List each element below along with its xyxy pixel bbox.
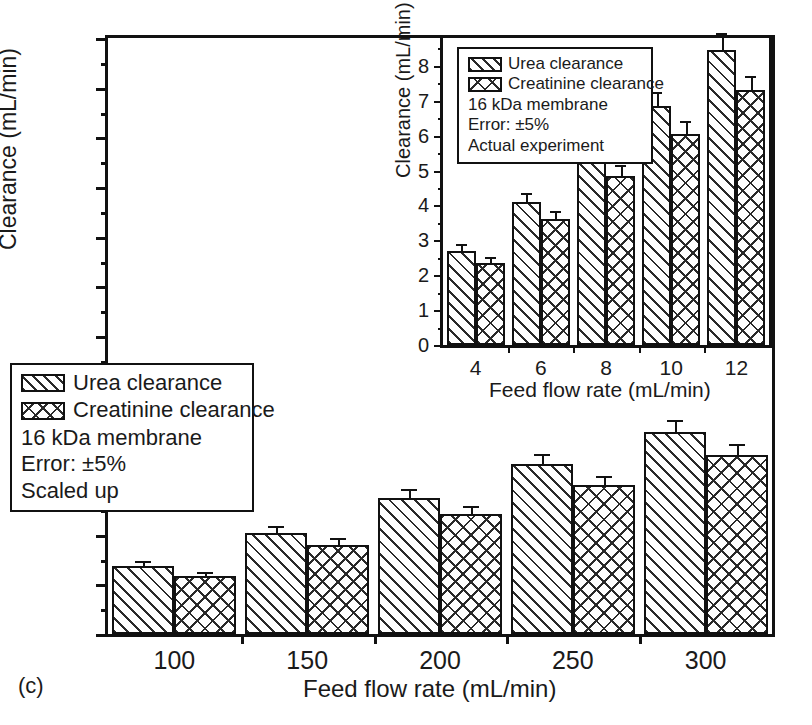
inset-legend-entry-urea: Urea clearance xyxy=(468,54,642,74)
y-axis-minor-tick xyxy=(101,609,108,612)
error-bar-cap xyxy=(550,211,561,213)
x-axis-label: 100 xyxy=(154,646,196,675)
error-bar xyxy=(461,246,463,251)
x-axis-tick xyxy=(506,634,509,644)
error-bar-cap xyxy=(135,561,151,563)
y-axis-tick xyxy=(434,66,443,68)
bar-urea xyxy=(378,498,440,634)
x-axis-label: 12 xyxy=(725,356,748,380)
bar-urea xyxy=(512,202,541,345)
x-axis-tick xyxy=(639,345,641,353)
inset-legend-note-mode: Actual experiment xyxy=(468,136,642,156)
y-axis-tick xyxy=(96,584,108,587)
main-legend: Urea clearance Creatinine clearance 16 k… xyxy=(10,363,254,512)
error-bar xyxy=(751,78,753,91)
y-axis-minor-tick xyxy=(101,113,108,116)
y-axis-tick xyxy=(434,136,443,138)
error-bar-cap xyxy=(534,454,550,456)
y-axis-minor-tick xyxy=(438,153,443,155)
y-axis-tick xyxy=(434,101,443,103)
error-bar xyxy=(686,123,688,134)
x-axis-label: 250 xyxy=(552,646,594,675)
y-axis-minor-tick xyxy=(438,118,443,120)
y-axis-minor-tick xyxy=(438,258,443,260)
inset-legend-note-membrane: 16 kDa membrane xyxy=(468,95,642,115)
y-axis-minor-tick xyxy=(101,262,108,265)
error-bar xyxy=(621,167,623,175)
error-bar-cap xyxy=(716,33,727,35)
legend-label-creatinine: Creatinine clearance xyxy=(73,397,275,423)
x-axis-label: 8 xyxy=(600,356,612,380)
y-axis-tick xyxy=(96,336,108,339)
panel-label: (c) xyxy=(18,673,44,699)
main-x-axis-title: Feed flow rate (mL/min) xyxy=(303,675,556,703)
error-bar xyxy=(737,446,739,455)
error-bar-cap xyxy=(521,193,532,195)
y-axis-label: 7 xyxy=(369,89,429,112)
error-bar-cap xyxy=(330,538,346,540)
error-bar xyxy=(276,528,278,533)
inset-chart: Clearance (mL/min) 0123456784681012 Urea… xyxy=(404,30,782,378)
bar-creatinine xyxy=(606,176,635,345)
inset-legend: Urea clearance Creatinine clearance 16 k… xyxy=(457,47,653,164)
error-bar xyxy=(526,195,528,202)
x-axis-tick xyxy=(374,634,377,644)
y-axis-label: 0 xyxy=(369,334,429,357)
x-axis-label: 150 xyxy=(286,646,328,675)
cross-hatch-swatch-icon xyxy=(21,402,65,420)
y-axis-tick xyxy=(96,38,108,41)
x-axis-label: 4 xyxy=(470,356,482,380)
x-axis-label: 300 xyxy=(685,646,727,675)
error-bar xyxy=(490,259,492,263)
bar-urea xyxy=(447,251,476,345)
error-bar-cap xyxy=(401,489,417,491)
legend-label-urea: Urea clearance xyxy=(73,370,222,396)
error-bar-cap xyxy=(729,444,745,446)
y-axis-tick xyxy=(434,275,443,277)
diagonal-hatch-swatch-icon xyxy=(21,374,65,392)
bar-creatinine xyxy=(671,134,700,345)
error-bar-cap xyxy=(680,121,691,123)
main-y-axis-title: Clearance (mL/min) xyxy=(0,48,22,250)
y-axis-minor-tick xyxy=(101,311,108,314)
y-axis-label: 8 xyxy=(369,54,429,77)
error-bar xyxy=(657,94,659,106)
x-axis-label: 6 xyxy=(535,356,547,380)
error-bar xyxy=(205,574,207,577)
y-axis-tick xyxy=(434,240,443,242)
error-bar xyxy=(338,540,340,544)
error-bar-cap xyxy=(197,572,213,574)
y-axis-minor-tick xyxy=(438,328,443,330)
bar-urea xyxy=(707,50,736,345)
error-bar xyxy=(604,478,606,485)
y-axis-minor-tick xyxy=(101,63,108,66)
y-axis-minor-tick xyxy=(438,48,443,50)
y-axis-minor-tick xyxy=(101,560,108,563)
x-axis-tick xyxy=(704,345,706,353)
cross-hatch-swatch-icon xyxy=(468,77,502,92)
error-bar-cap xyxy=(268,526,284,528)
error-bar-cap xyxy=(463,506,479,508)
bar-urea xyxy=(577,153,606,345)
legend-note-membrane: 16 kDa membrane xyxy=(21,425,243,451)
bar-urea xyxy=(511,464,573,634)
error-bar-cap xyxy=(667,420,683,422)
figure-panel-c: Clearance (mL/min) 050100150200250300350… xyxy=(0,0,812,725)
y-axis-tick xyxy=(434,205,443,207)
error-bar xyxy=(675,422,677,432)
error-bar xyxy=(471,508,473,514)
y-axis-label: 1 xyxy=(369,299,429,322)
error-bar xyxy=(143,563,145,566)
error-bar-cap xyxy=(745,76,756,78)
y-axis-label: 2 xyxy=(369,264,429,287)
bar-creatinine xyxy=(440,514,502,634)
error-bar-cap xyxy=(456,244,467,246)
x-axis-tick xyxy=(508,345,510,353)
legend-note-mode: Scaled up xyxy=(21,478,243,504)
y-axis-minor-tick xyxy=(438,223,443,225)
error-bar-cap xyxy=(596,476,612,478)
error-bar xyxy=(555,213,557,219)
x-axis-label: 200 xyxy=(419,646,461,675)
bar-urea xyxy=(112,566,174,634)
bar-creatinine xyxy=(706,455,768,634)
